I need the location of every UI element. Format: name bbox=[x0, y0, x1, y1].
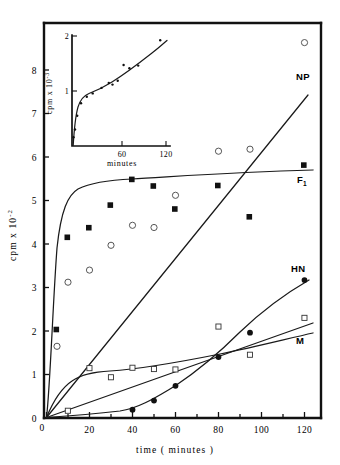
np-point bbox=[172, 192, 178, 198]
inset-y-axis-title-exponent: -3 bbox=[44, 72, 50, 78]
y-axis-title-base: cpm x 10 bbox=[8, 217, 18, 261]
f1-point bbox=[172, 206, 178, 212]
m-point bbox=[247, 352, 252, 357]
f1-point bbox=[65, 235, 71, 241]
f1-fit-curve bbox=[47, 170, 314, 418]
x-axis-ticklabels: 0 20 40 60 80 100 120 bbox=[39, 423, 312, 435]
inset-y-ticklabel-2: 2 bbox=[65, 32, 69, 41]
m-point bbox=[302, 315, 307, 320]
scientific-chart: 0 1 2 3 4 5 6 7 8 0 bbox=[0, 0, 340, 465]
np-point bbox=[108, 242, 114, 248]
x-ticklabel-40: 40 bbox=[127, 425, 137, 435]
inset-point bbox=[108, 82, 110, 84]
series-label-f1-sub: 1 bbox=[303, 180, 307, 187]
inset-point bbox=[137, 64, 139, 66]
x-ticklabel-80: 80 bbox=[213, 425, 223, 435]
inset-point bbox=[117, 80, 119, 82]
m-point bbox=[108, 375, 113, 380]
inset-point bbox=[76, 115, 78, 117]
inset-x-axis-title: minutes bbox=[107, 159, 137, 168]
inset-x-ticklabel-120: 120 bbox=[160, 150, 173, 159]
svg-text:F1: F1 bbox=[297, 174, 307, 187]
np-point bbox=[65, 279, 71, 285]
m-point bbox=[87, 366, 92, 371]
hn-point bbox=[173, 383, 179, 389]
inset-y-axis-title: cpm x 10-3 bbox=[44, 72, 54, 114]
x-ticklabel-20: 20 bbox=[84, 425, 94, 435]
f1-point bbox=[151, 183, 157, 189]
x-ticklabel-120: 120 bbox=[297, 425, 312, 435]
m-point bbox=[130, 365, 135, 370]
x-ticklabel-100: 100 bbox=[254, 425, 269, 435]
hn-point bbox=[130, 407, 136, 413]
np-point bbox=[151, 224, 157, 230]
y-axis-title-exponent: -2 bbox=[6, 209, 13, 217]
svg-text:cpm x 10-3: cpm x 10-3 bbox=[44, 72, 54, 114]
series-label-hn: HN bbox=[291, 263, 305, 274]
inset-point bbox=[111, 83, 113, 85]
x-axis-title: time ( minutes ) bbox=[136, 445, 214, 456]
inset-x-ticklabel-60: 60 bbox=[118, 150, 127, 159]
y-ticklabel-4: 4 bbox=[32, 240, 37, 250]
inset-y-ticklabel-1: 1 bbox=[65, 87, 69, 96]
inset-point bbox=[100, 87, 102, 89]
inset-y-axis-title-base: cpm x 10 bbox=[45, 79, 54, 114]
y-ticklabel-0: 0 bbox=[32, 414, 37, 424]
y-ticklabel-7: 7 bbox=[32, 109, 37, 119]
svg-text:cpm x 10-2: cpm x 10-2 bbox=[6, 209, 18, 261]
inset-point bbox=[72, 136, 74, 138]
np-point bbox=[215, 148, 221, 154]
series-label-f1: F1 bbox=[297, 174, 307, 187]
m-point bbox=[65, 408, 70, 413]
inset-point bbox=[74, 128, 76, 130]
m-point bbox=[216, 324, 221, 329]
np-point bbox=[301, 40, 307, 46]
y-ticklabel-1: 1 bbox=[32, 370, 37, 380]
y-axis-title: cpm x 10-2 bbox=[6, 209, 18, 261]
series-np-markers bbox=[54, 40, 308, 350]
inset-point bbox=[128, 67, 130, 69]
hn-point bbox=[151, 398, 157, 404]
m-point bbox=[173, 367, 178, 372]
hn-point bbox=[216, 354, 222, 360]
y-ticklabel-8: 8 bbox=[32, 66, 37, 76]
inset-plot: 2 1 60 120 minutes cpm x 10-3 bbox=[44, 32, 172, 168]
series-label-np: NP bbox=[296, 71, 310, 82]
hn-fit-curve bbox=[47, 280, 310, 418]
y-ticklabel-5: 5 bbox=[32, 196, 37, 206]
figure-container: 0 1 2 3 4 5 6 7 8 0 bbox=[0, 0, 340, 465]
inset-point bbox=[159, 39, 161, 41]
x-ticklabel-0: 0 bbox=[39, 423, 44, 433]
f1-point bbox=[215, 183, 221, 189]
np-point bbox=[247, 146, 253, 152]
y-ticklabel-6: 6 bbox=[32, 153, 37, 163]
inset-point bbox=[86, 96, 88, 98]
main-axes-frame bbox=[44, 23, 321, 418]
m-point bbox=[151, 367, 156, 372]
f1-point bbox=[108, 202, 114, 208]
f1-point bbox=[301, 162, 307, 168]
inset-markers bbox=[72, 39, 161, 138]
f1-point bbox=[129, 177, 135, 183]
np-point bbox=[129, 222, 135, 228]
y-ticklabel-3: 3 bbox=[32, 283, 37, 293]
m-fit-curve bbox=[47, 333, 314, 418]
y-ticklabel-2: 2 bbox=[32, 327, 37, 337]
inset-fit-curve bbox=[73, 41, 167, 146]
inset-point bbox=[92, 92, 94, 94]
np-point bbox=[86, 267, 92, 273]
f1-point bbox=[86, 225, 92, 231]
f1-point bbox=[54, 327, 60, 333]
hn-point bbox=[302, 277, 308, 283]
inset-point bbox=[122, 64, 124, 66]
series-label-m: M bbox=[296, 335, 304, 346]
f1-point bbox=[247, 214, 253, 220]
y-axis-ticklabels: 0 1 2 3 4 5 6 7 8 bbox=[32, 66, 37, 424]
inset-point bbox=[80, 102, 82, 104]
x-ticklabel-60: 60 bbox=[170, 425, 180, 435]
inset-axes-spines bbox=[72, 35, 170, 146]
np-point bbox=[54, 343, 60, 349]
hn-point bbox=[247, 330, 253, 336]
